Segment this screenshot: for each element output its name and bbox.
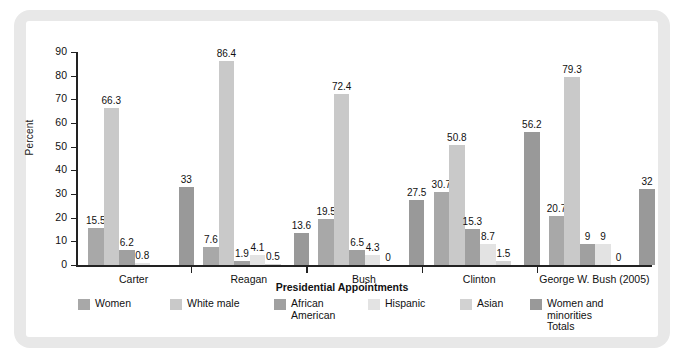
legend-color-swatch — [170, 299, 182, 310]
y-axis-tick-label: 40 — [45, 163, 67, 175]
bar-value-label: 56.2 — [517, 119, 547, 130]
y-axis-tick-mark — [71, 218, 76, 219]
bar-chart: Percent 0102030405060708090 15.566.36.20… — [0, 0, 684, 363]
bar — [449, 145, 465, 265]
x-axis-group-tick — [422, 266, 423, 273]
bar-value-label: 9 — [588, 231, 618, 242]
legend-color-swatch — [368, 299, 380, 310]
bar — [580, 244, 596, 265]
y-axis-title: Percent — [24, 103, 35, 173]
bar — [409, 200, 425, 265]
legend-item-label: Women — [95, 298, 131, 310]
bar — [179, 187, 195, 265]
y-axis-tick-mark — [71, 76, 76, 77]
bar — [496, 261, 512, 265]
y-axis-tick-mark — [71, 147, 76, 148]
bar — [234, 261, 250, 265]
bar-value-label: 72.4 — [327, 81, 357, 92]
bar — [135, 263, 151, 265]
y-axis-tick-mark — [71, 52, 76, 53]
bar — [434, 192, 450, 265]
y-axis-tick-label: 60 — [45, 116, 67, 128]
bar-value-label: 79.3 — [557, 64, 587, 75]
y-axis-line — [76, 52, 78, 265]
bar — [265, 264, 281, 265]
y-axis-tick-label: 0 — [45, 258, 67, 270]
bar-value-label: 13.6 — [286, 220, 316, 231]
bar — [88, 228, 104, 265]
legend-item-label: Asian — [477, 298, 503, 310]
legend-item-label: Women and minorities Totals — [547, 298, 618, 333]
bar-value-label: 8.7 — [473, 231, 503, 242]
legend-item[interactable]: African American — [274, 298, 335, 321]
chart-legend: WomenWhite maleAfrican AmericanHispanicA… — [78, 298, 618, 332]
bar-value-label: 0 — [604, 252, 634, 263]
bar — [318, 219, 334, 265]
bar — [639, 189, 655, 265]
bar-value-label: 50.8 — [442, 132, 472, 143]
y-axis-tick-label: 90 — [45, 45, 67, 57]
legend-item[interactable]: Hispanic — [368, 298, 425, 310]
y-axis-tick-mark — [71, 123, 76, 124]
bar-value-label: 33 — [171, 174, 201, 185]
x-axis-line — [76, 265, 652, 267]
legend-item-label: White male — [187, 298, 240, 310]
x-axis-group-tick — [306, 266, 307, 273]
legend-item[interactable]: Women and minorities Totals — [530, 298, 618, 333]
bar-value-label: 1.5 — [488, 248, 518, 259]
legend-item-label: African American — [291, 298, 335, 321]
legend-color-swatch — [460, 299, 472, 310]
bar-value-label: 66.3 — [96, 95, 126, 106]
y-axis-tick-label: 30 — [45, 187, 67, 199]
bar-value-label: 0 — [373, 252, 403, 263]
y-axis-tick-mark — [71, 241, 76, 242]
bar-value-label: 6.2 — [112, 237, 142, 248]
y-axis-tick-label: 80 — [45, 69, 67, 81]
bar — [294, 233, 310, 265]
bar-value-label: 86.4 — [211, 48, 241, 59]
y-axis-tick-mark — [71, 265, 76, 266]
y-axis-tick-label: 70 — [45, 92, 67, 104]
bar — [549, 216, 565, 265]
bar-value-label: 32 — [632, 176, 662, 187]
y-axis-tick-mark — [71, 194, 76, 195]
y-axis-tick-mark — [71, 170, 76, 171]
y-axis-tick-label: 20 — [45, 211, 67, 223]
bar-value-label: 15.3 — [457, 216, 487, 227]
legend-item-label: Hispanic — [385, 298, 425, 310]
x-axis-group-tick — [537, 266, 538, 273]
bar-value-label: 0.5 — [258, 251, 288, 262]
y-axis-tick-label: 10 — [45, 234, 67, 246]
x-axis-group-tick — [191, 266, 192, 273]
legend-color-swatch — [274, 299, 286, 310]
bar-value-label: 0.8 — [127, 250, 157, 261]
legend-color-swatch — [78, 299, 90, 310]
legend-item[interactable]: White male — [170, 298, 240, 310]
legend-item[interactable]: Women — [78, 298, 131, 310]
x-axis-title: Presidential Appointments — [0, 281, 684, 293]
y-axis-tick-label: 50 — [45, 140, 67, 152]
y-axis-tick-mark — [71, 99, 76, 100]
bar — [524, 132, 540, 265]
legend-item[interactable]: Asian — [460, 298, 503, 310]
bar — [219, 61, 235, 265]
bar — [203, 247, 219, 265]
legend-color-swatch — [530, 299, 542, 310]
